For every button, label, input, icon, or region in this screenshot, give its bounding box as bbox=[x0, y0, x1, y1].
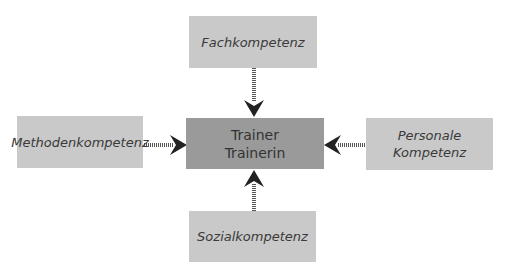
node-label-line2: Kompetenz bbox=[393, 144, 466, 161]
node-sozialkompetenz: Sozialkompetenz bbox=[189, 211, 316, 262]
node-label-line1: Trainer bbox=[231, 126, 279, 144]
node-fachkompetenz: Fachkompetenz bbox=[189, 16, 317, 68]
node-label-line2: Trainerin bbox=[225, 144, 286, 162]
node-trainer-center: Trainer Trainerin bbox=[186, 118, 324, 169]
node-label: Fachkompetenz bbox=[201, 34, 304, 51]
arrow-left-to-center bbox=[143, 135, 187, 155]
arrow-top-to-center bbox=[244, 68, 264, 117]
node-methodenkompetenz: Methodenkompetenz bbox=[17, 116, 143, 168]
arrow-bottom-to-center bbox=[244, 170, 264, 211]
node-label: Sozialkompetenz bbox=[197, 228, 308, 245]
node-label: Methodenkompetenz bbox=[11, 134, 149, 151]
node-personale-kompetenz: Personale Kompetenz bbox=[366, 118, 493, 170]
node-label-line1: Personale bbox=[398, 127, 462, 144]
arrow-right-to-center bbox=[324, 135, 366, 155]
